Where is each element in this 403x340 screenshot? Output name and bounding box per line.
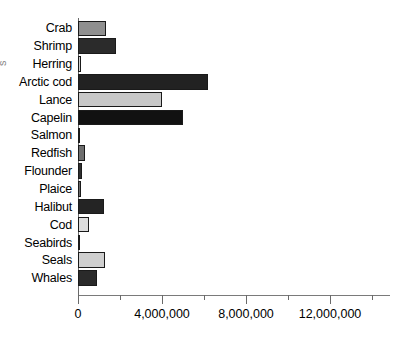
- x-tick-minor: [204, 295, 205, 300]
- category-label: Plaice: [0, 183, 72, 196]
- category-label: Arctic cod: [0, 76, 72, 89]
- plot-area: CrabShrimpHerringArctic codLanceCapelinS…: [0, 0, 403, 340]
- bar-row: Plaice: [0, 181, 403, 199]
- bar: [78, 38, 116, 54]
- category-label: Capelin: [0, 112, 72, 125]
- x-tick-label: 12,000,000: [299, 307, 362, 321]
- category-label: Seals: [0, 254, 72, 267]
- x-tick-label: 8,000,000: [218, 307, 274, 321]
- x-axis-line: [78, 295, 390, 296]
- bar: [78, 181, 81, 197]
- x-tick-major: [330, 295, 331, 304]
- bar-row: Redfish: [0, 145, 403, 163]
- bar: [78, 74, 208, 90]
- bar-row: Salmon: [0, 127, 403, 145]
- bar-row: Lance: [0, 91, 403, 109]
- category-label: Halibut: [0, 201, 72, 214]
- x-tick-minor: [288, 295, 289, 300]
- category-label: Shrimp: [0, 40, 72, 53]
- x-tick-minor: [372, 295, 373, 300]
- bar-row: Whales: [0, 270, 403, 288]
- bar-row: Herring: [0, 56, 403, 74]
- bar: [78, 163, 82, 179]
- bar: [78, 199, 104, 215]
- bar-row: Cod: [0, 216, 403, 234]
- bar-row: Flounder: [0, 163, 403, 181]
- bar: [78, 110, 183, 126]
- bar: [78, 145, 85, 161]
- bar: [78, 270, 97, 286]
- category-label: Salmon: [0, 129, 72, 142]
- category-label: Whales: [0, 272, 72, 285]
- x-tick-minor: [120, 295, 121, 300]
- x-tick-major: [78, 295, 79, 304]
- bar-row: Capelin: [0, 109, 403, 127]
- bar: [78, 21, 106, 37]
- x-tick-label: 0: [75, 307, 82, 321]
- category-label: Redfish: [0, 147, 72, 160]
- bar-row: Arctic cod: [0, 74, 403, 92]
- category-label: Seabirds: [0, 237, 72, 250]
- category-label: Lance: [0, 94, 72, 107]
- bar: [78, 56, 81, 72]
- x-tick-major: [162, 295, 163, 304]
- bar: [78, 252, 105, 268]
- category-label: Crab: [0, 22, 72, 35]
- bar: [78, 217, 89, 233]
- bar-row: Seabirds: [0, 234, 403, 252]
- bar-chart: s CrabShrimpHerringArctic codLanceCapeli…: [0, 0, 403, 340]
- bar: [78, 235, 80, 251]
- bar-row: Seals: [0, 252, 403, 270]
- bar-rows: CrabShrimpHerringArctic codLanceCapelinS…: [0, 20, 403, 288]
- bar-row: Crab: [0, 20, 403, 38]
- category-label: Cod: [0, 219, 72, 232]
- bar-row: Halibut: [0, 198, 403, 216]
- bar-row: Shrimp: [0, 38, 403, 56]
- x-tick-major: [246, 295, 247, 304]
- category-label: Herring: [0, 58, 72, 71]
- x-tick-label: 4,000,000: [134, 307, 190, 321]
- bar: [78, 128, 80, 144]
- bar: [78, 92, 162, 108]
- category-label: Flounder: [0, 165, 72, 178]
